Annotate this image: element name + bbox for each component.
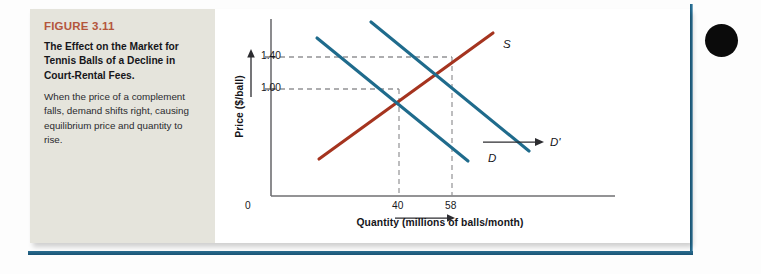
y-tick-label-140: 1.40 bbox=[261, 50, 281, 61]
figure-card: FIGURE 3.11 The Effect on the Market for… bbox=[30, 9, 690, 243]
page-border-bottom bbox=[28, 251, 693, 255]
origin-label: 0 bbox=[245, 200, 251, 211]
curve-label-demand: D bbox=[488, 152, 496, 164]
figure-title: The Effect on the Market for Tennis Ball… bbox=[44, 40, 201, 83]
x-axis-title: Quantity (millions of balls/month) bbox=[275, 217, 605, 228]
curve-label-demand-prime: D' bbox=[550, 136, 561, 148]
page-bullet-icon bbox=[705, 24, 738, 57]
page-root: FIGURE 3.11 The Effect on the Market for… bbox=[0, 0, 761, 274]
annotation-demand-shift-arrow-head bbox=[535, 138, 544, 146]
curve-label-supply: S bbox=[503, 38, 511, 50]
page-border-right bbox=[690, 4, 693, 252]
figure-plot-area: Price ($/ball) Quantity (millions of bal… bbox=[215, 9, 690, 243]
figure-caption-panel: FIGURE 3.11 The Effect on the Market for… bbox=[30, 9, 215, 243]
figure-number-label: FIGURE 3.11 bbox=[44, 20, 201, 33]
x-tick-label-40: 40 bbox=[392, 200, 403, 211]
figure-caption-text: When the price of a complement falls, de… bbox=[44, 90, 201, 147]
x-tick-label-58: 58 bbox=[445, 200, 456, 211]
annotation-price-arrow-head bbox=[247, 49, 255, 58]
y-axis-title: Price ($/ball) bbox=[234, 37, 245, 177]
y-tick-label-100: 1.00 bbox=[261, 82, 281, 93]
